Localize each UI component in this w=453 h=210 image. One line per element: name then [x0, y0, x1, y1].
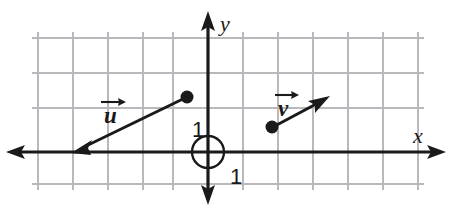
y-axis-label: y — [218, 11, 230, 36]
vector-u-label: u — [104, 103, 117, 128]
x-axis-label: x — [412, 123, 423, 148]
y-unit-label: 1 — [192, 117, 204, 142]
vector-v-arrowhead — [308, 96, 330, 113]
vector-u-tail-dot — [181, 91, 194, 104]
vector-v-label: v — [278, 96, 289, 121]
vector-v-tail-dot — [266, 121, 279, 134]
grid-horizontal-lines — [32, 38, 424, 184]
vector-v-label-arrow-head — [291, 91, 299, 99]
vector-u-label-group: u — [101, 98, 126, 128]
vector-u — [71, 91, 194, 156]
vector-u-label-arrow-head — [118, 98, 126, 106]
grid-layer — [32, 32, 424, 190]
vector-diagram-figure: x y 1 1 u v — [0, 0, 453, 210]
x-unit-label: 1 — [230, 164, 242, 189]
vector-v — [266, 96, 331, 134]
diagram-canvas: x y 1 1 u v — [0, 0, 453, 210]
vector-u-arrowhead — [71, 140, 92, 155]
vector-u-shaft — [84, 97, 187, 147]
grid-vertical-lines — [38, 32, 418, 190]
